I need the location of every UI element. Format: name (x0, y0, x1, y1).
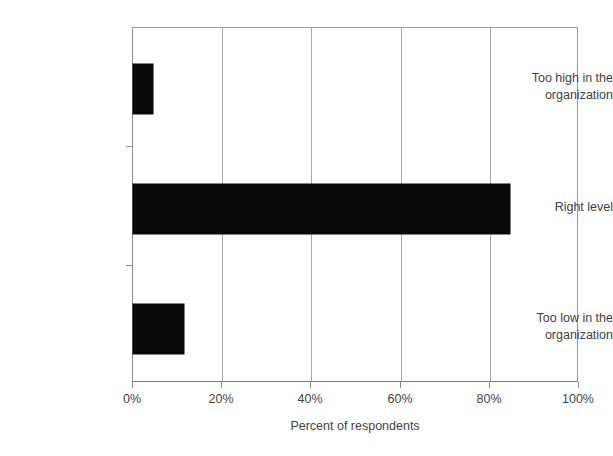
category-label-too-high-in-the-organization: Too high in the organization (491, 70, 613, 104)
x-axis-label-20: 20% (186, 391, 256, 407)
x-axis-tick-60 (400, 382, 401, 388)
bar-chart-figure: Too high in the organization Right level… (0, 0, 613, 456)
y-axis-tick-1 (126, 146, 133, 147)
x-axis-tick-20 (221, 382, 222, 388)
x-axis-tick-40 (310, 382, 311, 388)
x-axis-tick-100 (578, 382, 579, 388)
x-axis-label-0: 0% (97, 391, 167, 407)
category-label-right-level: Right level (491, 199, 613, 216)
x-axis-label-60: 60% (365, 391, 435, 407)
bar-too-high-in-the-organization (133, 64, 153, 114)
x-axis-label-100: 100% (543, 391, 613, 407)
x-axis-label-40: 40% (275, 391, 345, 407)
x-axis-tick-0 (132, 382, 133, 388)
x-axis-title: Percent of respondents (132, 418, 578, 434)
bar-right-level (133, 184, 510, 234)
y-axis-tick-2 (126, 265, 133, 266)
x-axis-label-80: 80% (454, 391, 524, 407)
x-axis-tick-80 (489, 382, 490, 388)
bar-too-low-in-the-organization (133, 304, 184, 354)
category-label-too-low-in-the-organization: Too low in the organization (491, 310, 613, 344)
